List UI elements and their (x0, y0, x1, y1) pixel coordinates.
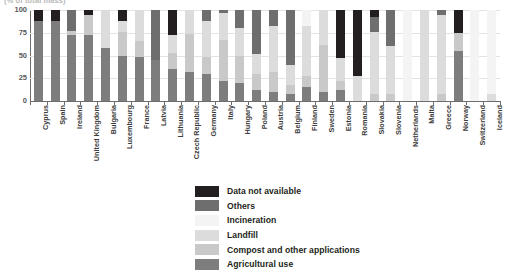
bar-segment (168, 10, 177, 35)
bar-cyprus[interactable] (34, 10, 43, 101)
legend-label: Data not available (227, 186, 301, 196)
bar-segment (151, 60, 160, 101)
bar-segment (118, 56, 127, 102)
bar-segment (487, 94, 496, 101)
x-axis-tick (131, 101, 132, 105)
bar-segment (470, 10, 479, 101)
bar-segment (269, 26, 278, 72)
bar-austria[interactable] (269, 10, 278, 101)
bar-malta[interactable] (420, 10, 429, 101)
bar-netherlands[interactable] (403, 10, 412, 101)
bar-slovakia[interactable] (370, 10, 379, 101)
x-axis-label-hungary: Hungary (243, 105, 252, 135)
bar-segment (151, 10, 160, 60)
x-axis-tick (248, 101, 249, 105)
bar-segment (118, 32, 127, 56)
bar-segment (252, 10, 261, 54)
legend-swatch (195, 244, 219, 255)
legend-item[interactable]: Incineration (195, 213, 360, 228)
bar-slovenia[interactable] (386, 10, 395, 101)
bar-segment (202, 74, 211, 101)
x-axis-label-finland: Finland (310, 105, 319, 131)
x-axis-label-latvia: Latvia (159, 105, 168, 126)
bar-segment (454, 33, 463, 51)
bar-segment (269, 72, 278, 92)
bar-iceland[interactable] (487, 10, 496, 101)
bar-greece[interactable] (437, 10, 446, 101)
bar-belgium[interactable] (286, 10, 295, 101)
x-axis-label-lithuania: Lithuania (176, 105, 185, 137)
bar-segment (84, 10, 93, 15)
bar-norway[interactable] (454, 10, 463, 101)
legend-item[interactable]: Data not available (195, 184, 360, 199)
x-axis-label-united-kingdom: United Kingdom (92, 105, 101, 161)
bar-ireland[interactable] (67, 10, 76, 101)
bar-segment (67, 10, 76, 31)
legend-swatch (195, 186, 219, 197)
bar-spain[interactable] (51, 10, 60, 101)
bar-lithuania[interactable] (168, 10, 177, 101)
bar-segment (219, 10, 228, 13)
bar-segment (135, 41, 144, 57)
x-axis-tick (500, 101, 501, 105)
bar-segment (84, 15, 93, 35)
legend-label: Landfill (227, 230, 258, 240)
y-axis-tick-label: 50 (3, 51, 27, 60)
bar-segment (219, 13, 228, 40)
bar-latvia[interactable] (151, 10, 160, 101)
legend-label: Compost and other applications (227, 245, 360, 255)
bar-segment (437, 15, 446, 93)
x-axis-tick (231, 101, 232, 105)
bar-bulgaria[interactable] (101, 10, 110, 101)
x-axis-label-sweden: Sweden (327, 105, 336, 132)
x-axis-tick (215, 101, 216, 105)
plot-area (30, 10, 500, 101)
bar-segment (437, 94, 446, 101)
bar-france[interactable] (135, 10, 144, 101)
x-axis-tick (47, 101, 48, 105)
bar-segment (235, 10, 244, 28)
x-axis-label-luxembourg: Luxembourg (125, 105, 134, 149)
bar-luxembourg[interactable] (118, 10, 127, 101)
x-axis-label-czech-republic: Czech Republic (192, 105, 201, 159)
bar-segment (302, 87, 311, 101)
bar-segment (286, 94, 295, 101)
bar-segment (370, 17, 379, 32)
bar-segment (168, 35, 177, 53)
x-axis-tick (483, 101, 484, 105)
legend-item[interactable]: Agricultural use (195, 257, 360, 272)
bar-poland[interactable] (252, 10, 261, 101)
bar-segment (51, 21, 60, 101)
bar-segment (34, 21, 43, 101)
bar-segment (168, 69, 177, 101)
bar-segment (286, 85, 295, 94)
bar-switzerland[interactable] (470, 10, 479, 101)
bar-segment (135, 57, 144, 101)
legend-item[interactable]: Compost and other applications (195, 242, 360, 257)
legend-swatch (195, 200, 219, 211)
bar-segment (487, 10, 496, 94)
legend-item[interactable]: Others (195, 199, 360, 214)
bar-hungary[interactable] (235, 10, 244, 101)
x-axis-label-romania: Romania (360, 105, 369, 136)
bar-italy[interactable] (219, 10, 228, 101)
x-axis-label-norway: Norway (461, 105, 470, 131)
bar-romania[interactable] (353, 10, 362, 101)
y-axis-tick-label: 75 (3, 28, 27, 37)
bar-segment (269, 92, 278, 101)
bar-sweden[interactable] (319, 10, 328, 101)
bar-segment (235, 28, 244, 55)
chart-title: (% of total mass) (4, 0, 204, 8)
bar-estonia[interactable] (336, 10, 345, 101)
legend-item[interactable]: Landfill (195, 228, 360, 243)
x-axis-label-malta: Malta (427, 105, 436, 124)
bar-segment (118, 21, 127, 32)
bar-segment (370, 10, 379, 17)
bar-germany[interactable] (202, 10, 211, 101)
bar-segment (302, 76, 311, 87)
bar-czech-republic[interactable] (185, 10, 194, 101)
bar-united-kingdom[interactable] (84, 10, 93, 101)
bar-finland[interactable] (302, 10, 311, 101)
x-axis-label-greece: Greece (444, 105, 453, 130)
x-axis-tick (64, 101, 65, 105)
